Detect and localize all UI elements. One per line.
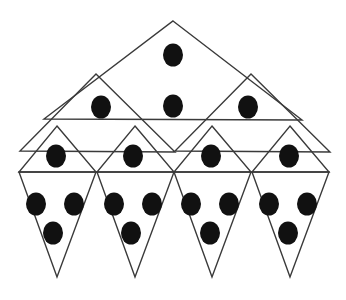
dot-center-top xyxy=(163,95,183,118)
dot-inv-1-bottom xyxy=(43,222,63,245)
dot-inv-2-bottom xyxy=(121,222,141,245)
dot-inv-1-right xyxy=(64,193,84,216)
dot-medium-right xyxy=(238,96,258,119)
dot-medium-left xyxy=(91,96,111,119)
dot-inv-3-left xyxy=(181,193,201,216)
dot-inv-4-left xyxy=(259,193,279,216)
dot-inv-4-right xyxy=(297,193,317,216)
dot-small-3 xyxy=(201,145,221,168)
dot-small-4 xyxy=(279,145,299,168)
figure-canvas xyxy=(0,0,346,300)
dot-inv-3-right xyxy=(219,193,239,216)
dot-small-2 xyxy=(123,145,143,168)
dot-inv-4-bottom xyxy=(278,222,298,245)
triangles-dots-figure xyxy=(0,0,346,300)
dot-inv-1-left xyxy=(26,193,46,216)
dot-inv-2-right xyxy=(142,193,162,216)
dot-inv-3-bottom xyxy=(200,222,220,245)
dot-apex xyxy=(163,44,183,67)
dot-small-1 xyxy=(46,145,66,168)
dot-inv-2-left xyxy=(104,193,124,216)
